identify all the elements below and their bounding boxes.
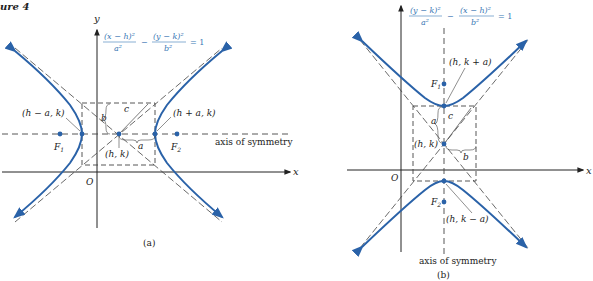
center-label-b: (h, k) <box>414 139 438 149</box>
hyperbola-figure: ure 4 y x O axis of symmetry (h − a, k) … <box>0 0 593 281</box>
vertex-top-point <box>442 104 447 109</box>
focus-2-label-b: F2 <box>430 197 441 208</box>
panel-a: y x O axis of symmetry (h − a, k) (h + a… <box>2 13 299 248</box>
svg-text:(y − k)²: (y − k)² <box>410 6 441 15</box>
vertex-bottom-point <box>442 179 447 184</box>
vertex-bottom-label: (h, k − a) <box>446 214 489 224</box>
focus-2-point <box>175 132 180 137</box>
caption-a: (a) <box>143 238 155 248</box>
axis-of-symmetry-label: axis of symmetry <box>215 137 293 147</box>
svg-text:a²: a² <box>114 44 122 53</box>
svg-text:(y − k)²: (y − k)² <box>153 32 184 41</box>
svg-text:= 1: = 1 <box>190 38 204 47</box>
svg-text:b²: b² <box>164 44 172 53</box>
origin-label: O <box>86 177 94 187</box>
panel-b: x O axis of symmetry (h, k + a) (h, k − … <box>347 6 592 280</box>
focus-1-point-b <box>442 82 447 87</box>
svg-text:(x − h)²: (x − h)² <box>104 32 135 41</box>
focus-1-point <box>58 132 63 137</box>
vertex-left-label: (h − a, k) <box>22 108 65 118</box>
origin-label-b: O <box>391 173 399 183</box>
center-point-b <box>442 142 447 147</box>
x-axis-label-b: x <box>586 165 592 176</box>
svg-text:(x − h)²: (x − h)² <box>460 6 491 15</box>
svg-text:b²: b² <box>471 18 479 27</box>
focus-2-point-b <box>442 200 447 205</box>
svg-text:= 1: = 1 <box>498 12 512 21</box>
equation-a: (x − h)² a² − (y − k)² b² = 1 <box>103 32 204 53</box>
focus-2-label: F2 <box>170 142 181 153</box>
b-label-b: b <box>463 152 469 162</box>
focus-1-label-b: F1 <box>430 79 441 90</box>
vertex-right-point <box>153 132 158 137</box>
c-label: c <box>124 104 129 114</box>
center-label: (h, k) <box>105 149 129 159</box>
c-label-b: c <box>448 111 453 121</box>
svg-text:a²: a² <box>421 18 429 27</box>
svg-text:−: − <box>447 12 454 21</box>
a-label: a <box>138 141 143 151</box>
equation-b: (y − k)² a² − (x − h)² b² = 1 <box>409 6 512 27</box>
x-axis-label: x <box>293 166 299 177</box>
svg-text:−: − <box>141 38 148 47</box>
axis-of-symmetry-label-b: axis of symmetry <box>419 256 497 266</box>
vertex-top-label: (h, k + a) <box>449 57 492 67</box>
vertex-left-point <box>80 132 85 137</box>
y-axis-label: y <box>93 13 100 24</box>
caption-b: (b) <box>437 270 450 280</box>
center-point <box>117 132 122 137</box>
vertex-right-label: (h + a, k) <box>173 108 216 118</box>
figure-label: ure 4 <box>0 1 29 12</box>
focus-1-label: F1 <box>53 142 64 153</box>
